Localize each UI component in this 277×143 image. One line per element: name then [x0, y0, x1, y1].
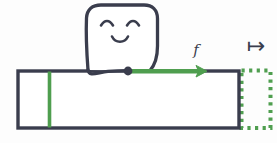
diagram-canvas: f ↦	[0, 0, 277, 143]
smiling-blob-character	[86, 5, 157, 74]
maps-to-symbol-icon: ↦	[247, 33, 265, 58]
target-region-outline	[242, 71, 271, 129]
blob-body-outline	[86, 5, 157, 71]
anchor-dot	[124, 67, 133, 76]
diagram-svg: f ↦	[0, 0, 277, 143]
target-region-dotted-box	[242, 71, 271, 129]
function-label-f: f	[192, 41, 201, 59]
